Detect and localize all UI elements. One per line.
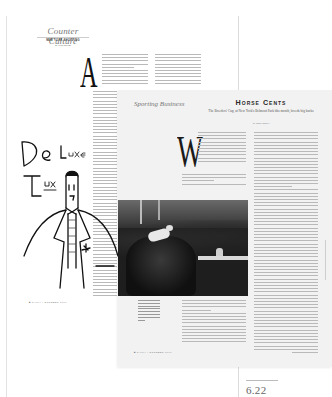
byline: by Mark Inkster: [206, 122, 316, 125]
title-rule: [37, 37, 89, 38]
lead-column-cont: [182, 174, 246, 187]
horse-cents-spread: Sporting Business Horse Cents The Breede…: [118, 90, 332, 367]
lead-column: [198, 132, 246, 164]
right-column: [254, 132, 318, 355]
tuxedo-man-illustration-icon: [14, 138, 129, 298]
photo-credit: [325, 240, 326, 280]
de-luxe-tux-illustration: [14, 138, 129, 298]
back-spread-footer: ■ TALKY | OCTOBER 1999: [29, 301, 67, 304]
headline: Horse Cents: [206, 98, 316, 107]
body-column-1: [102, 54, 148, 86]
horse-race-photo: [118, 200, 248, 296]
section-title: Counter Culture: [33, 26, 93, 46]
front-spread-footer: ■ TALKY | OCTOBER 1999: [134, 351, 172, 354]
dek: The Breeders' Cup, at New York's Belmont…: [202, 109, 320, 113]
byline: by Jessi Mellor: [33, 44, 93, 47]
page-number: 6.22: [246, 384, 266, 396]
lower-column: [182, 300, 246, 345]
drop-cap: A: [80, 51, 97, 95]
kicker: NEW YORK SHOPPING: [33, 39, 93, 42]
photo-caption: [138, 300, 160, 322]
section-title: Sporting Business: [134, 100, 184, 108]
page-number-rule: [246, 380, 278, 381]
body-column-2: [155, 54, 201, 86]
